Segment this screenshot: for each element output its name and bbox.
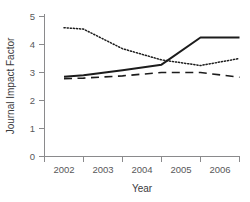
x-axis-ticks bbox=[45, 157, 240, 163]
chart-plot-area: 5 4 3 2 1 0 2002 2003 2004 2005 2006 Yea… bbox=[0, 0, 250, 202]
x-axis-tick-labels: 2002 2003 2004 2005 2006 bbox=[53, 164, 230, 175]
y-tick-label: 2 bbox=[30, 95, 35, 106]
x-axis-title: Year bbox=[132, 183, 153, 194]
y-axis-tick-labels: 5 4 3 2 1 0 bbox=[30, 11, 35, 162]
y-tick-label: 0 bbox=[30, 151, 35, 162]
x-tick-label-2002: 2002 bbox=[53, 164, 74, 175]
y-tick-label: 4 bbox=[30, 39, 35, 50]
journal-impact-factor-chart: 5 4 3 2 1 0 2002 2003 2004 2005 2006 Yea… bbox=[0, 0, 250, 202]
dotted-series-line bbox=[64, 28, 240, 66]
y-tick-label: 5 bbox=[30, 11, 35, 22]
y-axis-title: Journal Impact Factor bbox=[5, 37, 16, 134]
y-axis-ticks bbox=[39, 17, 45, 157]
series-group bbox=[64, 28, 240, 79]
y-tick-label: 3 bbox=[30, 67, 35, 78]
y-tick-label: 1 bbox=[30, 123, 35, 134]
x-tick-label-2005: 2005 bbox=[170, 164, 191, 175]
x-tick-label-2006: 2006 bbox=[209, 164, 230, 175]
x-tick-label-2004: 2004 bbox=[131, 164, 152, 175]
x-tick-label-2003: 2003 bbox=[92, 164, 113, 175]
